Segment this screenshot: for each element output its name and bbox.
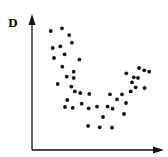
data-point bbox=[120, 92, 124, 96]
data-point bbox=[115, 97, 119, 101]
data-point bbox=[143, 86, 147, 90]
data-point bbox=[72, 76, 76, 80]
data-point bbox=[80, 102, 84, 106]
data-point bbox=[72, 70, 76, 74]
data-point bbox=[98, 125, 102, 129]
data-point bbox=[78, 58, 82, 62]
data-point bbox=[56, 82, 60, 86]
data-point bbox=[124, 71, 128, 75]
data-point bbox=[110, 126, 114, 130]
data-point bbox=[142, 68, 146, 72]
x-axis-arrow-icon bbox=[153, 147, 164, 154]
data-point bbox=[101, 115, 105, 119]
data-point bbox=[134, 85, 138, 89]
data-point bbox=[51, 46, 55, 50]
data-point bbox=[73, 90, 77, 94]
data-point bbox=[60, 65, 64, 69]
data-point bbox=[63, 52, 67, 56]
data-point bbox=[111, 107, 115, 111]
data-point bbox=[69, 85, 73, 89]
data-point bbox=[86, 124, 90, 128]
scatter-chart: D bbox=[0, 0, 168, 157]
data-point bbox=[78, 91, 82, 95]
data-point bbox=[108, 92, 112, 96]
data-point bbox=[65, 75, 69, 79]
data-point bbox=[58, 44, 62, 48]
data-point bbox=[95, 105, 99, 109]
data-point bbox=[124, 101, 128, 105]
data-point bbox=[129, 90, 133, 94]
data-point bbox=[147, 70, 151, 74]
data-point bbox=[136, 76, 140, 80]
data-point bbox=[49, 29, 53, 33]
data-point bbox=[132, 75, 136, 79]
data-point bbox=[70, 41, 74, 45]
data-point bbox=[137, 66, 141, 70]
data-point bbox=[122, 112, 126, 116]
data-point bbox=[71, 106, 75, 110]
data-point bbox=[60, 26, 64, 30]
y-axis-arrow-icon bbox=[29, 14, 36, 25]
data-point bbox=[87, 92, 91, 96]
data-point bbox=[52, 56, 56, 60]
y-axis-label: D bbox=[8, 17, 18, 30]
data-point bbox=[67, 33, 71, 37]
data-point bbox=[65, 98, 69, 102]
points-layer bbox=[49, 26, 151, 129]
data-point bbox=[63, 105, 67, 109]
data-point bbox=[130, 80, 134, 84]
data-point bbox=[87, 106, 91, 110]
data-point bbox=[106, 105, 110, 109]
